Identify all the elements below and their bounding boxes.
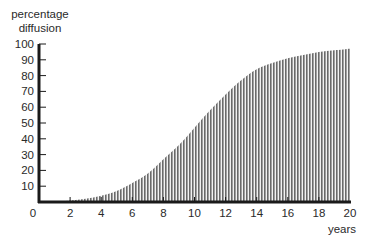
x-tick-label: 12 [219, 207, 232, 219]
y-tick-label: 20 [21, 164, 34, 176]
y-tick-label: 100 [15, 38, 34, 50]
x-tick-label: 14 [250, 207, 263, 219]
x-tick-label: 10 [188, 207, 201, 219]
y-tick-label: 80 [21, 70, 34, 82]
x-tick-label: 20 [344, 207, 357, 219]
y-tick-label: 50 [21, 117, 34, 129]
y-tick-label: 90 [21, 54, 34, 66]
diffusion-chart: 102030405060708090100 02468101214161820 … [0, 0, 365, 242]
y-axis-ticks: 102030405060708090100 [15, 38, 46, 192]
x-tick-label: 6 [129, 207, 135, 219]
y-tick-label: 10 [21, 180, 34, 192]
x-tick-label: 8 [160, 207, 166, 219]
x-tick-label: 18 [313, 207, 326, 219]
y-tick-label: 40 [21, 133, 34, 145]
y-tick-label: 70 [21, 85, 34, 97]
diffusion-area [55, 49, 350, 202]
y-tick-label: 30 [21, 149, 34, 161]
x-tick-label: 16 [281, 207, 294, 219]
x-tick-label: 0 [30, 207, 36, 219]
x-tick-label: 2 [67, 207, 73, 219]
y-tick-label: 60 [21, 101, 34, 113]
x-axis-label: years [328, 223, 356, 235]
x-tick-label: 4 [98, 207, 105, 219]
